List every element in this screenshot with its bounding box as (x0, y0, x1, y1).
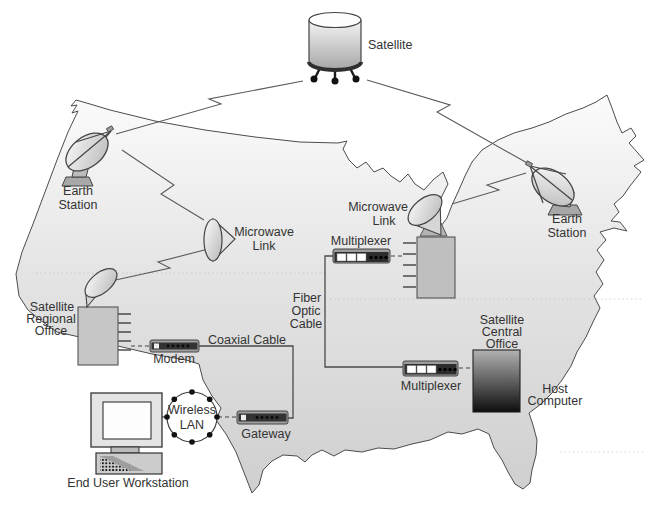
svg-text:Office: Office (486, 337, 518, 351)
svg-text:Earth: Earth (63, 184, 93, 198)
multiplexer-north-node: Multiplexer (331, 234, 391, 263)
svg-text:Microwave: Microwave (234, 225, 294, 239)
svg-text:Earth: Earth (552, 212, 582, 226)
svg-text:Wireless: Wireless (168, 403, 216, 417)
svg-text:Computer: Computer (528, 394, 583, 408)
modem-device-icon (150, 340, 199, 352)
modem-node: Modem (150, 340, 199, 366)
multiplexer-device-icon (333, 249, 390, 263)
satellite-cylinder-icon (309, 13, 361, 85)
svg-text:Multiplexer: Multiplexer (331, 234, 391, 248)
satellite-label: Satellite (368, 38, 413, 52)
diagram-canvas: Satellite Earth Station (0, 0, 648, 514)
link-satellite-to-earth-station-west (116, 81, 303, 134)
fiber-optic-cable-label: Fiber Optic Cable (290, 291, 323, 331)
multiplexer-device-icon (403, 361, 458, 376)
satellite-node: Satellite (309, 13, 413, 85)
office-box-icon (78, 307, 118, 365)
svg-text:Cable: Cable (290, 317, 323, 331)
coaxial-cable-label: Coaxial Cable (208, 333, 286, 347)
svg-text:Link: Link (253, 239, 277, 253)
mainframe-box-icon (473, 350, 520, 412)
svg-text:Fiber: Fiber (293, 291, 321, 305)
svg-text:Station: Station (548, 226, 587, 240)
svg-text:Optic: Optic (291, 304, 320, 318)
svg-text:Link: Link (373, 214, 397, 228)
svg-text:Modem: Modem (153, 352, 195, 366)
svg-text:LAN: LAN (180, 418, 204, 432)
wireless-lan-node: Wireless LAN (164, 389, 220, 445)
svg-text:Multiplexer: Multiplexer (401, 379, 461, 393)
svg-text:End User Workstation: End User Workstation (67, 476, 188, 490)
gateway-device-icon (237, 411, 288, 424)
svg-text:Microwave: Microwave (348, 200, 408, 214)
svg-text:Station: Station (59, 198, 98, 212)
network-diagram: Satellite Earth Station (0, 0, 648, 514)
svg-text:Office: Office (35, 324, 67, 338)
desktop-computer-icon (91, 393, 162, 474)
office-box-icon (417, 237, 455, 298)
svg-text:Gateway: Gateway (241, 427, 291, 441)
